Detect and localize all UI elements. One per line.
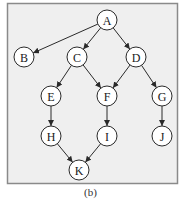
node-h: H bbox=[41, 126, 61, 146]
node-label: I bbox=[105, 130, 109, 144]
node-label: K bbox=[75, 164, 84, 178]
node-f: F bbox=[97, 86, 117, 106]
node-b: B bbox=[14, 47, 34, 67]
node-i: I bbox=[97, 126, 117, 146]
node-k: K bbox=[69, 160, 89, 180]
figure-caption: (b) bbox=[0, 186, 181, 198]
node-label: F bbox=[104, 90, 111, 104]
node-label: C bbox=[73, 51, 81, 65]
node-d: D bbox=[126, 47, 146, 67]
node-label: G bbox=[158, 90, 167, 104]
node-a: A bbox=[97, 10, 117, 30]
node-label: H bbox=[47, 130, 56, 144]
directed-graph: ABCDEFGHIJK bbox=[0, 0, 181, 199]
node-label: J bbox=[160, 130, 165, 144]
node-label: E bbox=[47, 90, 54, 104]
node-c: C bbox=[67, 47, 87, 67]
node-e: E bbox=[41, 86, 61, 106]
node-label: B bbox=[20, 51, 28, 65]
node-label: D bbox=[132, 51, 141, 65]
node-g: G bbox=[152, 86, 172, 106]
node-j: J bbox=[152, 126, 172, 146]
node-label: A bbox=[103, 14, 112, 28]
